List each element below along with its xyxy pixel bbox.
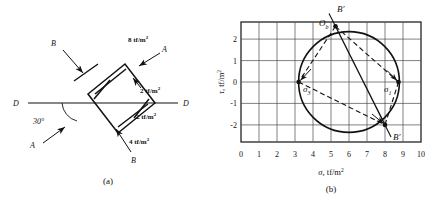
ytick-1: 1	[233, 57, 237, 66]
x-axis-title: σ, tf/m2	[318, 167, 344, 177]
label-bprime-top: B′	[337, 4, 345, 14]
arrow-to-sigma1	[387, 71, 397, 81]
ytick-neg1: -1	[230, 99, 237, 108]
stress-2r-text: 2 tf/m	[140, 87, 158, 95]
stress-label-8tf: 8 tf/m2	[128, 35, 149, 44]
x-tick-labels: 0 1 2 3 4 5 6 7 8 9 10	[239, 150, 425, 159]
panel-a-element-diagram: 30° D D B 8 tf/m2 A 2 tf/m2	[0, 0, 223, 209]
stress-label-4tf: 4 tf/m2	[129, 137, 150, 146]
label-sigma1: σ1	[384, 84, 391, 96]
arrow-to-sigma3	[301, 69, 312, 80]
label-bprime-bottom: B′	[393, 132, 401, 142]
stress-8-sup: 2	[146, 35, 149, 40]
point-bprime	[383, 123, 388, 128]
stress-2b-sup: 2	[154, 112, 157, 117]
y-axis-title: τ, tf/m2	[216, 70, 226, 94]
xtick-1: 1	[257, 150, 261, 159]
panel-b-mohr-circle: Ob B′ B′ σ3 σ1 2 1 0 -1 -2 0 1 2 3 4 5	[215, 0, 446, 209]
svg-text:2 tf/m2: 2 tf/m2	[140, 86, 161, 95]
svg-text:4 tf/m2: 4 tf/m2	[129, 137, 150, 146]
angle-arc-30	[62, 103, 77, 121]
label-D-left: D	[12, 99, 19, 108]
label-pole: Ob	[319, 18, 329, 30]
arrow-B-top-left	[63, 50, 83, 73]
xtick-7: 7	[365, 150, 369, 159]
xtick-2: 2	[275, 150, 279, 159]
xtick-10: 10	[417, 150, 425, 159]
xtick-0: 0	[239, 150, 243, 159]
arrow-A-right	[139, 53, 160, 66]
xtick-6: 6	[347, 150, 351, 159]
point-pole	[333, 24, 338, 29]
label-A-right: A	[161, 45, 167, 54]
figure-container: 30° D D B 8 tf/m2 A 2 tf/m2	[0, 0, 446, 209]
ytick-neg2: -2	[230, 121, 237, 130]
arrow-A-bottom-left	[43, 127, 65, 143]
svg-text:2 tf/m2: 2 tf/m2	[136, 112, 157, 121]
ytick-2: 2	[233, 35, 237, 44]
caption-b: (b)	[326, 184, 337, 194]
construction-lines	[299, 26, 399, 125]
label-B-top-left: B	[51, 39, 56, 48]
svg-text:8 tf/m2: 8 tf/m2	[128, 35, 149, 44]
ytick-0: 0	[233, 78, 237, 87]
stress-2b-text: 2 tf/m	[136, 113, 154, 121]
xtick-3: 3	[293, 150, 297, 159]
point-sigma1	[396, 80, 401, 85]
angle-label-30: 30°	[32, 117, 45, 126]
stress-4-text: 4 tf/m	[129, 138, 147, 146]
soil-element-square	[88, 64, 155, 133]
label-sigma3: σ3	[303, 84, 310, 96]
stress-8-text: 8 tf/m	[128, 36, 146, 44]
stress-2r-sup: 2	[158, 86, 161, 91]
label-D-right: D	[182, 99, 189, 108]
xtick-5: 5	[329, 150, 333, 159]
stress-4-sup: 2	[147, 137, 150, 142]
panel-b-svg: Ob B′ B′ σ3 σ1 2 1 0 -1 -2 0 1 2 3 4 5	[215, 0, 446, 209]
y-tick-labels: 2 1 0 -1 -2	[230, 35, 237, 130]
xtick-4: 4	[311, 150, 315, 159]
point-sigma3	[296, 80, 301, 85]
caption-a: (a)	[103, 176, 113, 186]
xtick-8: 8	[383, 150, 387, 159]
stress-label-2tf-right: 2 tf/m2	[140, 86, 161, 95]
stress-label-2tf-bottom: 2 tf/m2	[136, 112, 157, 121]
label-B-bottom: B	[131, 156, 136, 165]
dash-pole-sigma3	[299, 26, 336, 82]
xtick-9: 9	[401, 150, 405, 159]
label-A-bottom-left: A	[29, 141, 35, 150]
panel-a-svg: 30° D D B 8 tf/m2 A 2 tf/m2	[0, 0, 223, 209]
